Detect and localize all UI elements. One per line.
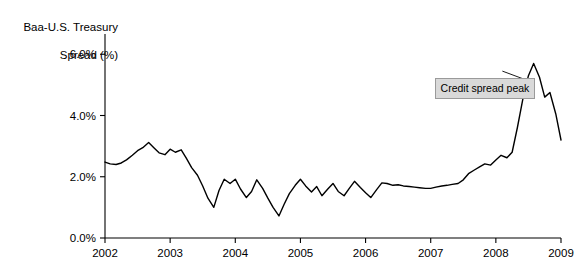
x-tick-label: 2004 <box>222 247 248 259</box>
y-tick-label: 0.0% <box>70 232 96 244</box>
annotation-label: Credit spread peak <box>441 82 530 94</box>
y-tick-label: 2.0% <box>70 171 96 183</box>
x-tick-label: 2002 <box>92 247 118 259</box>
y-tick-label: 6.0% <box>70 48 96 60</box>
x-tick-label: 2005 <box>288 247 314 259</box>
plot-area: 0.0%2.0%4.0%6.0%200220032004200520062007… <box>0 0 586 269</box>
x-tick-label: 2006 <box>353 247 379 259</box>
annotation-credit-spread-peak: Credit spread peak <box>435 78 536 99</box>
x-tick-label: 2009 <box>548 247 574 259</box>
x-tick-label: 2003 <box>157 247 183 259</box>
x-tick-label: 2007 <box>418 247 444 259</box>
x-tick-label: 2008 <box>483 247 509 259</box>
credit-spread-chart: Baa-U.S. Treasury Spread (%) 0.0%2.0%4.0… <box>0 0 586 269</box>
y-tick-label: 4.0% <box>70 110 96 122</box>
